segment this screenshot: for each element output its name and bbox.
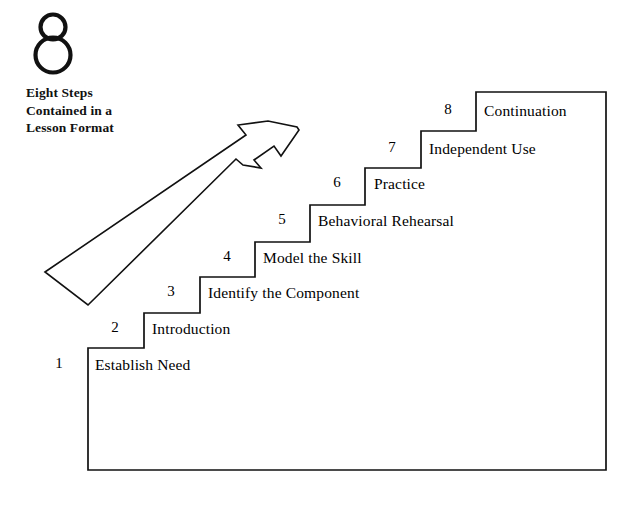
step-label-4: Model the Skill xyxy=(263,249,362,267)
logo-block: Eight Steps Contained in a Lesson Format xyxy=(26,10,176,137)
step-label-3: Identify the Component xyxy=(208,284,359,302)
step-number-3: 3 xyxy=(160,283,182,300)
step-label-7: Independent Use xyxy=(429,140,536,158)
step-number-5: 5 xyxy=(271,211,293,228)
step-label-2: Introduction xyxy=(152,320,230,338)
step-number-4: 4 xyxy=(216,248,238,265)
step-label-6: Practice xyxy=(374,175,425,193)
step-label-1: Establish Need xyxy=(95,356,191,374)
step-label-5: Behavioral Rehearsal xyxy=(318,212,454,230)
logo-caption: Eight Steps Contained in a Lesson Format xyxy=(26,84,176,137)
step-number-8: 8 xyxy=(437,101,459,118)
upward-progress-arrow xyxy=(45,121,299,305)
diagram-page: Eight Steps Contained in a Lesson Format… xyxy=(0,0,633,505)
step-label-8: Continuation xyxy=(484,102,567,120)
step-number-6: 6 xyxy=(326,174,348,191)
figure-eight-logo xyxy=(26,10,84,76)
step-number-7: 7 xyxy=(381,139,403,156)
step-number-1: 1 xyxy=(48,355,70,372)
step-number-2: 2 xyxy=(104,319,126,336)
